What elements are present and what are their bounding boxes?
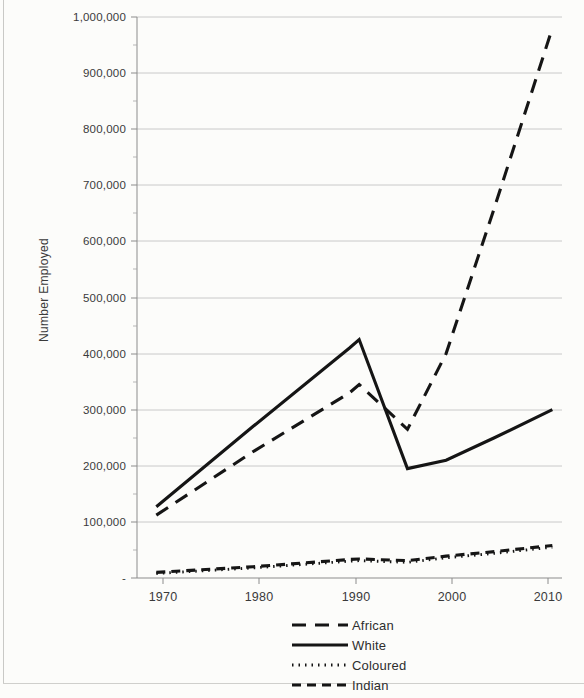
x-axis-tick-labels: 1970 1980 1990 2000 2010 — [149, 590, 563, 604]
y-tick-label: 200,000 — [83, 460, 126, 472]
chart-figure: 1,000,000 900,000 800,000 700,000 600,00… — [0, 0, 584, 698]
y-tick-label: 700,000 — [83, 179, 126, 191]
chart-legend: AfricanWhiteColouredIndian — [292, 618, 406, 693]
x-axis-ticks — [163, 578, 548, 584]
legend-label-indian: Indian — [352, 678, 389, 693]
x-tick-label: 2010 — [534, 590, 563, 604]
gridlines — [137, 17, 562, 522]
legend-label-african: African — [352, 618, 394, 633]
data-series-group — [156, 28, 552, 573]
series-line-indian — [156, 545, 552, 572]
y-tick-label: 100,000 — [83, 516, 126, 528]
line-chart-svg: 1,000,000 900,000 800,000 700,000 600,00… — [0, 0, 584, 698]
y-tick-label: 1,000,000 — [73, 11, 126, 23]
y-tick-label: 400,000 — [83, 348, 126, 360]
y-tick-label: 900,000 — [83, 67, 126, 79]
y-tick-label: 800,000 — [83, 123, 126, 135]
y-tick-label: - — [122, 572, 126, 584]
y-axis-title: Number Employed — [37, 238, 51, 342]
y-tick-label: 600,000 — [83, 235, 126, 247]
legend-label-coloured: Coloured — [352, 658, 406, 673]
x-tick-label: 1970 — [149, 590, 178, 604]
y-tick-label: 500,000 — [83, 292, 126, 304]
series-line-african — [156, 28, 552, 515]
y-tick-label: 300,000 — [83, 404, 126, 416]
y-axis-tick-labels: 1,000,000 900,000 800,000 700,000 600,00… — [73, 11, 126, 584]
x-tick-label: 1980 — [245, 590, 274, 604]
x-tick-label: 2000 — [438, 590, 467, 604]
series-line-white — [156, 340, 552, 507]
x-tick-label: 1990 — [342, 590, 371, 604]
legend-label-white: White — [352, 638, 386, 653]
